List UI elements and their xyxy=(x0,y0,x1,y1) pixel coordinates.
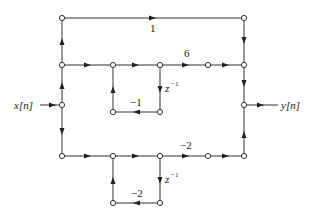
node xyxy=(59,153,64,158)
node xyxy=(157,109,162,114)
node xyxy=(205,153,210,158)
nodes xyxy=(59,15,246,205)
node xyxy=(241,62,246,67)
delay-exponent-upper: −1 xyxy=(171,80,179,88)
delay-exponent-lower: −1 xyxy=(171,171,179,179)
delay-label-lower: z xyxy=(164,173,170,185)
output-node xyxy=(241,102,246,107)
output-label: y[n] xyxy=(280,99,300,111)
node xyxy=(110,62,115,67)
node xyxy=(59,15,64,20)
node xyxy=(205,62,210,67)
node xyxy=(157,200,162,205)
node xyxy=(110,109,115,114)
gain-top-path: 1 xyxy=(150,22,156,34)
node xyxy=(157,62,162,67)
arrowheads xyxy=(49,16,264,206)
node xyxy=(157,153,162,158)
gain-upper-feedback: −1 xyxy=(130,96,142,108)
gain-lower-feedback: −2 xyxy=(131,187,143,199)
input-node xyxy=(59,102,64,107)
node xyxy=(241,15,246,20)
node xyxy=(59,62,64,67)
node xyxy=(110,153,115,158)
node xyxy=(110,200,115,205)
node xyxy=(241,153,246,158)
delay-label-upper: z xyxy=(164,82,170,94)
gain-bottom-path: −2 xyxy=(180,139,192,151)
gain-middle-path: 6 xyxy=(184,47,190,59)
signal-flow-graph: x[n] y[n] 1 6 −2 −1 −2 z −1 z −1 xyxy=(0,0,309,221)
input-label: x[n] xyxy=(13,99,33,111)
